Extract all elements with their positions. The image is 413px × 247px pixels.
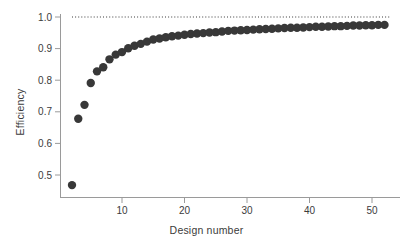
data-point [68, 181, 76, 189]
x-tick-label: 30 [241, 205, 253, 216]
y-axis-title: Efficiency [14, 52, 26, 172]
y-tick-label: 0.8 [38, 75, 52, 86]
y-tick-label: 0.5 [38, 170, 52, 181]
x-tick-label: 50 [366, 205, 378, 216]
x-tick-label: 10 [116, 205, 128, 216]
y-tick-label: 0.9 [38, 43, 52, 54]
y-tick-label: 1.0 [38, 12, 52, 23]
data-point [99, 63, 107, 71]
data-point [87, 79, 95, 87]
x-axis-title: Design number [0, 224, 413, 236]
y-tick-label: 0.6 [38, 138, 52, 149]
y-tick-label: 0.7 [38, 106, 52, 117]
data-point [80, 101, 88, 109]
data-point [74, 115, 82, 123]
chart-background [0, 0, 413, 247]
efficiency-scatter-plot: 0.50.60.70.80.91.0 1020304050 [0, 0, 413, 247]
data-point [380, 21, 388, 29]
x-tick-label: 40 [304, 205, 316, 216]
chart-figure: 0.50.60.70.80.91.0 1020304050 Design num… [0, 0, 413, 247]
x-tick-label: 20 [179, 205, 191, 216]
